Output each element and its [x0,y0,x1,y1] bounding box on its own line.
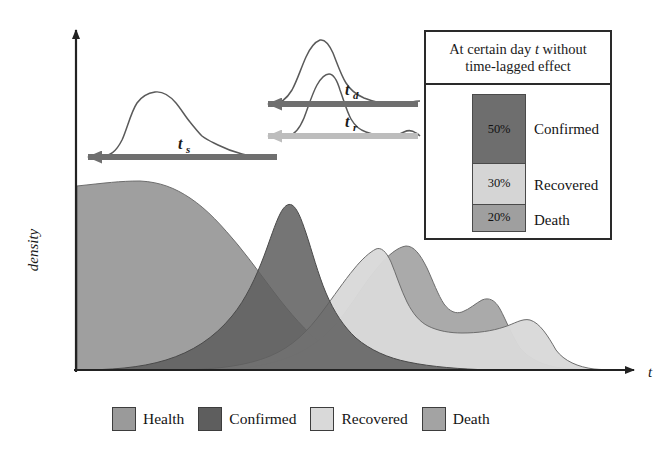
bar-segment-recovered-pct: 30% [488,176,510,191]
label-symptom-lag-base: t [178,135,183,152]
label-recovery-lag-sub: r [353,121,358,133]
x-axis-label: t [648,364,653,380]
legend-swatch-health-icon [112,407,136,431]
stat-box-header-line1: At certain day t without [449,41,587,57]
bar-segment-death: 20% [473,204,525,231]
bar-label-death: Death [534,212,570,229]
stat-box-header-post: without [539,41,587,57]
figure-root: density t t s t d t r [0,0,671,457]
legend-item-confirmed: Confirmed [198,407,296,431]
bar-label-confirmed: Confirmed [534,121,599,138]
label-death-lag-base: t [345,81,350,98]
legend-label-death: Death [453,410,490,428]
label-death-lag-sub: d [353,89,359,101]
bar-segment-confirmed-pct: 50% [488,122,510,137]
label-symptom-lag-sub: s [185,143,190,155]
y-axis-label: density [25,228,41,271]
annotation-curves [100,40,420,157]
legend-swatch-confirmed-icon [198,407,222,431]
stat-box-header: At certain day t without time-lagged eff… [426,32,610,85]
bar-label-recovered: Recovered [534,177,598,194]
annotation-labels: t s t d t r [178,81,359,155]
legend-label-confirmed: Confirmed [229,410,296,428]
legend-swatch-recovered-icon [310,407,334,431]
legend-label-recovered: Recovered [341,410,407,428]
legend-item-death: Death [422,407,490,431]
stacked-bar: 50% 30% 20% [472,94,526,232]
annotation-arrows [88,104,418,157]
bar-segment-recovered: 30% [473,163,525,204]
legend-swatch-death-icon [422,407,446,431]
bar-segment-death-pct: 20% [488,210,510,225]
legend-item-recovered: Recovered [310,407,407,431]
chart-legend: Health Confirmed Recovered Death [112,402,572,436]
label-recovery-lag-base: t [345,113,350,130]
stat-box-header-line2: time-lagged effect [465,58,571,74]
bar-segment-confirmed: 50% [473,95,525,163]
legend-label-health: Health [143,410,184,428]
legend-item-health: Health [112,407,184,431]
stat-box-body: 50% 30% 20% Confirmed Recovered Death [426,85,610,238]
stat-box: At certain day t without time-lagged eff… [424,30,612,240]
stat-box-header-pre: At certain day [449,41,535,57]
